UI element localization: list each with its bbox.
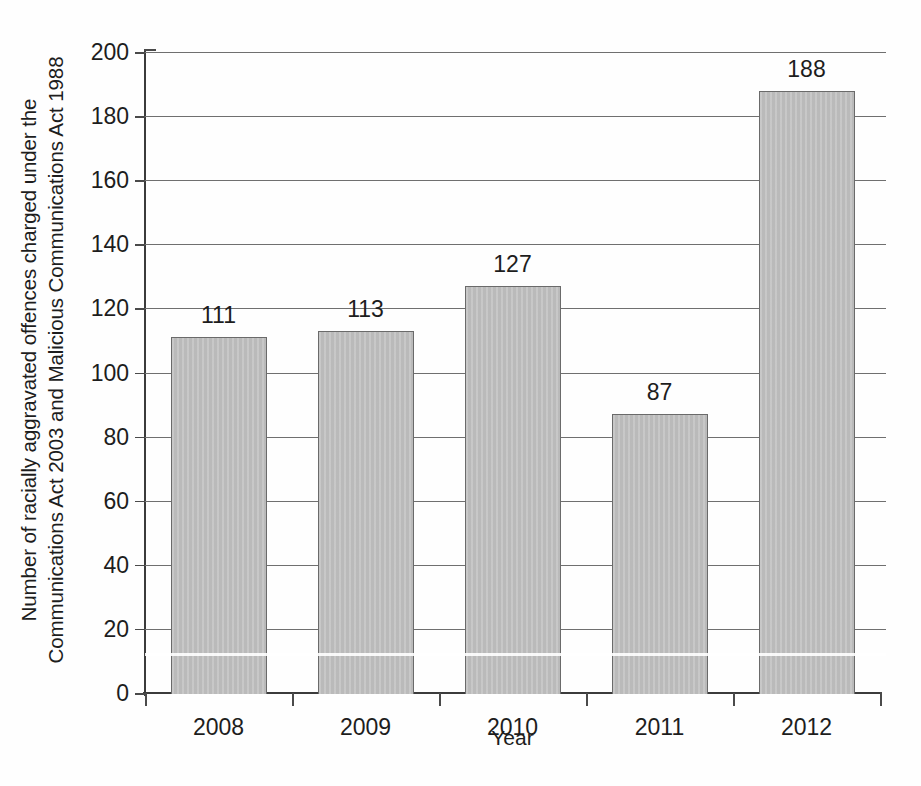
y-axis-tick-label: 100	[91, 359, 129, 386]
y-axis-tick-label: 140	[91, 231, 129, 258]
y-axis-title-line-2: Communications Act 2003 and Malicious Co…	[43, 57, 70, 664]
y-axis-tick-label: 60	[103, 487, 129, 514]
y-axis-tick-label: 80	[103, 423, 129, 450]
bar-texture	[466, 287, 560, 694]
y-axis-tick	[135, 693, 145, 695]
x-axis-tick	[145, 693, 147, 706]
y-axis-title-line-1: Number of racially aggravated offences c…	[16, 99, 43, 622]
y-axis-tick	[135, 437, 145, 439]
x-axis-tick	[880, 693, 882, 706]
bar-value-label: 113	[347, 296, 384, 323]
bar-value-label: 87	[647, 379, 673, 406]
y-axis-tick	[135, 565, 145, 567]
y-axis-tick-label: 120	[91, 295, 129, 322]
y-axis-tick-label: 40	[103, 551, 129, 578]
bar	[171, 337, 267, 694]
bar-value-label: 188	[787, 56, 825, 83]
bar-value-label: 127	[493, 251, 531, 278]
y-axis-tick-label: 20	[103, 615, 129, 642]
y-axis-tick	[135, 629, 145, 631]
bar-texture	[760, 92, 854, 695]
bar-value-label: 111	[201, 302, 236, 329]
y-axis-tick	[135, 180, 145, 182]
bar	[612, 414, 708, 694]
y-axis-tick-label: 200	[91, 39, 129, 66]
bar	[759, 91, 855, 695]
y-axis-title: Number of racially aggravated offences c…	[0, 0, 86, 720]
y-axis-tick	[135, 373, 145, 375]
x-axis-tick	[292, 693, 294, 706]
gridline	[145, 52, 886, 53]
y-axis-tick	[135, 501, 145, 503]
y-axis-tick	[135, 116, 145, 118]
y-axis-tick	[135, 244, 145, 246]
bar-texture	[319, 332, 413, 694]
y-axis-tick	[135, 52, 145, 54]
y-axis-top-stub	[144, 49, 156, 51]
bar-chart-figure: Number of racially aggravated offences c…	[0, 0, 921, 786]
y-axis-tick-label: 180	[91, 103, 129, 130]
bar	[318, 331, 414, 694]
bar	[465, 286, 561, 694]
bar-texture	[613, 415, 707, 694]
x-axis-tick	[733, 693, 735, 706]
bar-texture	[172, 338, 266, 694]
x-axis-tick	[439, 693, 441, 706]
x-axis-tick	[586, 693, 588, 706]
y-axis-tick-label: 0	[116, 680, 129, 707]
y-axis-tick-label: 160	[91, 167, 129, 194]
y-axis-tick	[135, 308, 145, 310]
plot-area: 020406080100120140160180200 111113127871…	[145, 52, 880, 693]
x-axis-title: Year	[145, 726, 880, 750]
